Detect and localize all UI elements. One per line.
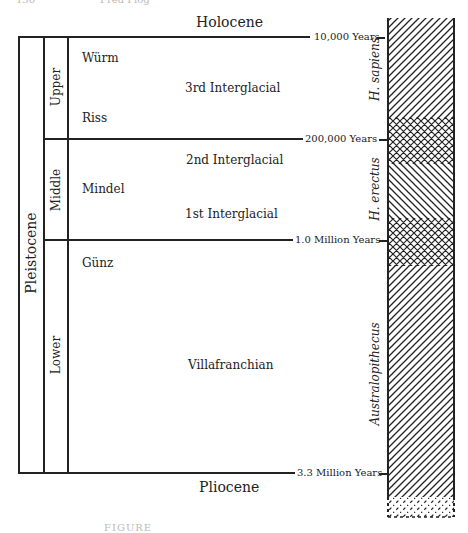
date-3-3-million-years: 3.3 Million Years xyxy=(295,467,384,478)
hominid-h-sapiens: H. sapiens xyxy=(368,24,382,114)
stage-2nd-interglacial: 2nd Interglacial xyxy=(186,153,283,167)
stage-villafranchian: Villafranchian xyxy=(188,358,273,372)
epoch-pleistocene: Pleistocene xyxy=(23,203,39,303)
stage-mindel: Mindel xyxy=(82,182,124,196)
hominid-australopithecus: Australopithecus xyxy=(368,304,382,444)
subdivision-middle: Middle xyxy=(49,150,63,230)
running-head: Fred Plog xyxy=(100,0,150,5)
australopithecus-uncertain-range xyxy=(388,497,454,517)
boundary-10000 xyxy=(18,36,310,38)
australopithecus-hatch xyxy=(388,265,454,497)
hominid-range-column xyxy=(386,16,456,521)
boundary-1m xyxy=(43,239,301,241)
sapiens-hatch xyxy=(388,18,454,118)
pleistocene-right-border xyxy=(43,36,45,474)
page-number: 136 xyxy=(16,0,35,5)
stage-gunz: Günz xyxy=(82,256,113,270)
epoch-holocene: Holocene xyxy=(196,14,263,30)
erectus-hatch xyxy=(388,163,454,219)
subdivision-upper: Upper xyxy=(49,47,63,127)
figure-caption-fragment: FIGURE xyxy=(104,522,152,533)
sapiens-erectus-overlap xyxy=(388,117,454,164)
erectus-australopithecus-overlap xyxy=(388,218,454,266)
date-200000-years: 200,000 Years xyxy=(303,133,379,144)
stage-3rd-interglacial: 3rd Interglacial xyxy=(185,81,280,95)
boundary-3-3m xyxy=(18,472,312,474)
stage-riss: Riss xyxy=(82,111,107,125)
boundary-200000 xyxy=(43,138,309,140)
hominid-h-erectus: H. erectus xyxy=(368,144,382,234)
epoch-pliocene: Pliocene xyxy=(199,479,259,495)
stage-1st-interglacial: 1st Interglacial xyxy=(185,207,278,221)
subdivision-lower: Lower xyxy=(49,315,63,395)
pleistocene-left-border xyxy=(18,36,20,474)
date-1-million-years: 1.0 Million Years xyxy=(293,234,382,245)
subdivision-right-border xyxy=(67,36,69,474)
stage-wurm: Würm xyxy=(82,51,119,65)
